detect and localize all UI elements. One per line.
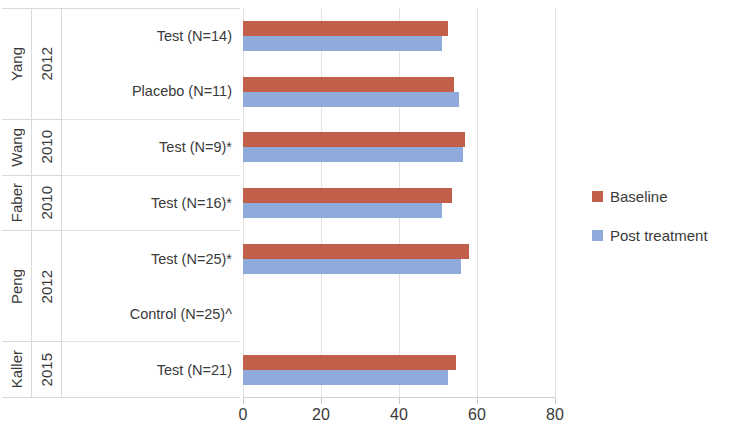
study-name: Peng [9,269,24,304]
x-axis-ticks [243,398,555,404]
x-axis-tick [243,398,244,404]
study-name: Wang [9,128,24,167]
study-name: Faber [9,183,24,222]
x-axis-tick-label: 20 [312,406,330,424]
x-axis-tick [477,398,478,404]
group-label: Placebo (N=11) [62,64,240,119]
group-label-column: Test (N=14) Placebo (N=11) Test (N=9)* T… [62,9,240,397]
study-cell: Yang [2,9,31,119]
legend-swatch-icon [592,191,603,202]
study-cell: Peng [2,230,31,341]
bar-group [243,8,555,64]
x-axis-tick-label: 80 [546,406,564,424]
year-cell: 2010 [32,175,61,231]
study-cell: Kaller [2,341,31,397]
x-axis-tick [321,398,322,404]
bar [243,92,459,107]
bar-group [243,342,555,398]
bar [243,203,442,218]
bar-group [243,119,555,175]
group-label: Control (N=25)^ [62,286,240,341]
bar-group [243,287,555,343]
x-axis-tick [399,398,400,404]
bar-group [243,64,555,120]
year-cell: 2015 [32,341,61,397]
study-year-column: 2012 2010 2010 2012 2015 [32,9,62,397]
gridline [555,8,556,398]
bar [243,355,456,370]
study-name: Kaller [9,350,24,388]
study-cell: Wang [2,119,31,175]
bar [243,244,469,259]
bar [243,259,461,274]
category-axis: Yang Wang Faber Peng Kaller 2012 2010 [2,8,240,398]
study-name-column: Yang Wang Faber Peng Kaller [2,9,32,397]
x-axis-tick-label: 0 [239,406,248,424]
bar [243,188,452,203]
bar [243,21,448,36]
group-label: Test (N=25)* [62,230,240,286]
legend: BaselinePost treatment [592,188,742,266]
x-axis-tick [555,398,556,404]
group-label: Test (N=21) [62,341,240,397]
bar [243,370,448,385]
bar [243,132,465,147]
legend-label: Baseline [610,188,668,205]
x-axis-tick-label: 60 [468,406,486,424]
study-year: 2012 [39,270,54,303]
legend-item[interactable]: Post treatment [592,227,742,244]
group-label: Test (N=14) [62,9,240,64]
legend-item[interactable]: Baseline [592,188,742,205]
year-cell: 2012 [32,230,61,341]
bar [243,147,463,162]
x-axis-tick-label: 40 [390,406,408,424]
legend-swatch-icon [592,230,603,241]
plot-area [243,8,555,398]
group-label: Test (N=9)* [62,119,240,175]
study-name: Yang [9,47,24,81]
study-year: 2012 [39,47,54,80]
bar-rows [243,8,555,398]
year-cell: 2012 [32,9,61,119]
bar [243,36,442,51]
x-axis-tick-labels: 020406080 [243,406,555,432]
year-cell: 2010 [32,119,61,175]
bar-group [243,231,555,287]
bar [243,77,454,92]
bar-chart: Yang Wang Faber Peng Kaller 2012 2010 [0,0,744,439]
group-label: Test (N=16)* [62,175,240,231]
study-year: 2010 [39,130,54,163]
bar-group [243,175,555,231]
legend-label: Post treatment [610,227,708,244]
study-year: 2010 [39,186,54,219]
study-cell: Faber [2,175,31,231]
study-year: 2015 [39,353,54,386]
